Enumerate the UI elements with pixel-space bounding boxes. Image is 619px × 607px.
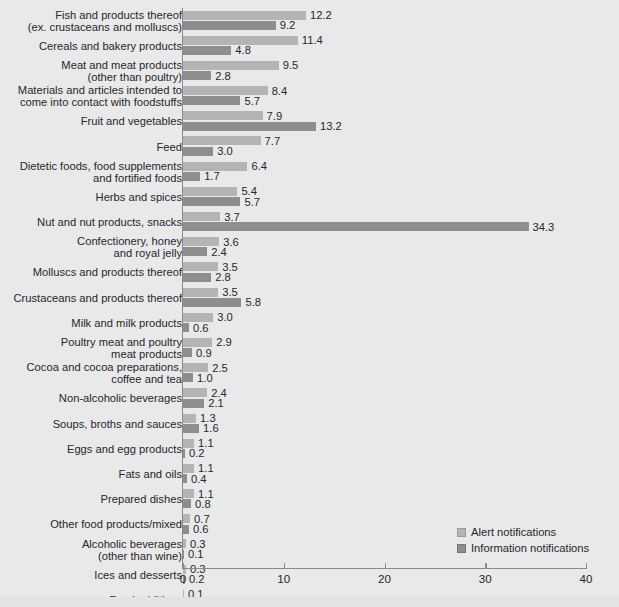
bar-information[interactable]: 2.8 [183, 71, 211, 80]
chart-row: Molluscs and products thereof3.52.8 [0, 260, 619, 285]
bar-value-label: 3.5 [222, 286, 238, 298]
bar-value-label: 2.5 [212, 362, 228, 374]
bar-value-label: 2.1 [208, 397, 224, 409]
chart-row: Dietetic foods, food supplements and for… [0, 159, 619, 184]
bar-alert[interactable]: 9.5 [183, 61, 279, 70]
chart-rows: Fish and products thereof (ex. crustacea… [0, 8, 619, 607]
bar-value-label: 3.0 [217, 145, 233, 157]
bar-alert[interactable]: 11.4 [183, 36, 298, 45]
bar-alert[interactable]: 3.6 [183, 237, 219, 246]
bar-information[interactable]: 0.4 [183, 474, 187, 483]
bar-information[interactable]: 0.9 [183, 348, 192, 357]
category-label: Feed [0, 140, 182, 152]
bar-alert[interactable]: 5.4 [183, 187, 237, 196]
row-bars: 3.00.6 [183, 310, 619, 335]
category-label: Milk and milk products [0, 317, 182, 329]
category-label: Dietetic foods, food supplements and for… [0, 160, 182, 184]
bar-value-label: 0.6 [193, 322, 209, 334]
row-bars: 7.73.0 [183, 134, 619, 159]
bar-alert[interactable]: 6.4 [183, 162, 247, 171]
bar-information[interactable]: 13.2 [183, 122, 316, 131]
bar-rect [183, 11, 306, 20]
bar-rect [183, 424, 199, 433]
row-bars: 8.45.7 [183, 84, 619, 109]
bar-alert[interactable]: 2.4 [183, 388, 207, 397]
bar-value-label: 11.4 [302, 34, 323, 46]
category-label: Confectionery, honey and royal jelly [0, 235, 182, 259]
row-bars: 3.52.8 [183, 260, 619, 285]
bar-information[interactable]: 1.7 [183, 172, 200, 181]
bar-information[interactable]: 0.8 [183, 499, 191, 508]
bar-rect [183, 363, 208, 372]
bar-value-label: 0.9 [196, 347, 212, 359]
chart-row: Eggs and egg products1.10.2 [0, 436, 619, 461]
bar-rect [183, 61, 279, 70]
bar-alert[interactable]: 1.1 [183, 439, 194, 448]
bar-information[interactable]: 4.8 [183, 46, 231, 55]
bar-alert[interactable]: 7.9 [183, 111, 263, 120]
bar-value-label: 2.9 [216, 336, 232, 348]
chart-row: Milk and milk products3.00.6 [0, 310, 619, 335]
bar-information[interactable]: 2.4 [183, 247, 207, 256]
bar-information[interactable]: 0.6 [183, 525, 189, 534]
bar-information[interactable]: 3.0 [183, 147, 213, 156]
bar-rect [183, 162, 247, 171]
chart-row: Confectionery, honey and royal jelly3.62… [0, 235, 619, 260]
category-label: Eggs and egg products [0, 443, 182, 455]
bar-value-label: 5.8 [245, 296, 261, 308]
category-label: Ices and desserts [0, 569, 182, 581]
bar-rect [183, 499, 191, 508]
row-bars: 6.41.7 [183, 159, 619, 184]
bar-information[interactable]: 5.7 [183, 96, 240, 105]
chart-row: Non-alcoholic beverages2.42.1 [0, 386, 619, 411]
x-axis-end-cap [586, 563, 587, 569]
x-tick [485, 563, 486, 569]
bar-alert[interactable]: 0.3 [183, 539, 186, 548]
bar-value-label: 1.6 [203, 422, 219, 434]
bar-alert[interactable]: 3.7 [183, 212, 220, 221]
bar-rect [183, 122, 316, 131]
bar-information[interactable]: 2.8 [183, 273, 211, 282]
bar-alert[interactable]: 3.0 [183, 313, 213, 322]
row-bars: 7.913.2 [183, 109, 619, 134]
legend-item-information[interactable]: Information notifications [457, 541, 589, 555]
bar-information[interactable]: 9.2 [183, 21, 276, 30]
bar-alert[interactable]: 7.7 [183, 136, 261, 145]
bar-value-label: 1.7 [204, 170, 220, 182]
bar-rect [183, 288, 218, 297]
legend-item-alert[interactable]: Alert notifications [457, 525, 589, 539]
bar-alert[interactable]: 2.5 [183, 363, 208, 372]
chart-row: Fish and products thereof (ex. crustacea… [0, 8, 619, 33]
bar-information[interactable]: 34.3 [183, 222, 529, 231]
bar-alert[interactable]: 1.1 [183, 464, 194, 473]
chart-row: Fruit and vegetables7.913.2 [0, 109, 619, 134]
bar-value-label: 5.7 [244, 196, 260, 208]
row-bars: 3.55.8 [183, 285, 619, 310]
bar-information[interactable]: 5.8 [183, 298, 241, 307]
bar-value-label: 13.2 [320, 120, 342, 132]
bar-alert[interactable]: 3.5 [183, 288, 218, 297]
category-label: Cocoa and cocoa preparations, coffee and… [0, 361, 182, 385]
bar-alert[interactable]: 2.9 [183, 338, 212, 347]
category-label: Herbs and spices [0, 191, 182, 203]
bar-information[interactable]: 0.6 [183, 323, 189, 332]
bar-alert[interactable]: 8.4 [183, 86, 268, 95]
bar-rect [183, 489, 194, 498]
bar-information[interactable]: 1.6 [183, 424, 199, 433]
bar-alert[interactable]: 1.1 [183, 489, 194, 498]
bar-information[interactable]: 2.1 [183, 399, 204, 408]
bar-value-label: 8.4 [272, 85, 288, 97]
bar-information[interactable]: 5.7 [183, 197, 240, 206]
y-axis-line [182, 8, 183, 569]
bar-alert[interactable]: 0.7 [183, 514, 190, 523]
bar-value-label: 2.8 [215, 70, 231, 82]
bar-alert[interactable]: 1.3 [183, 414, 196, 423]
bar-alert[interactable]: 3.5 [183, 262, 218, 271]
chart-row: Crustaceans and products thereof3.55.8 [0, 285, 619, 310]
category-label: Other food products/mixed [0, 518, 182, 530]
bar-alert[interactable]: 12.2 [183, 11, 306, 20]
row-bars: 1.10.8 [183, 487, 619, 512]
row-bars: 1.10.4 [183, 461, 619, 486]
bar-value-label: 2.8 [215, 271, 231, 283]
bar-information[interactable]: 1.0 [183, 373, 193, 382]
